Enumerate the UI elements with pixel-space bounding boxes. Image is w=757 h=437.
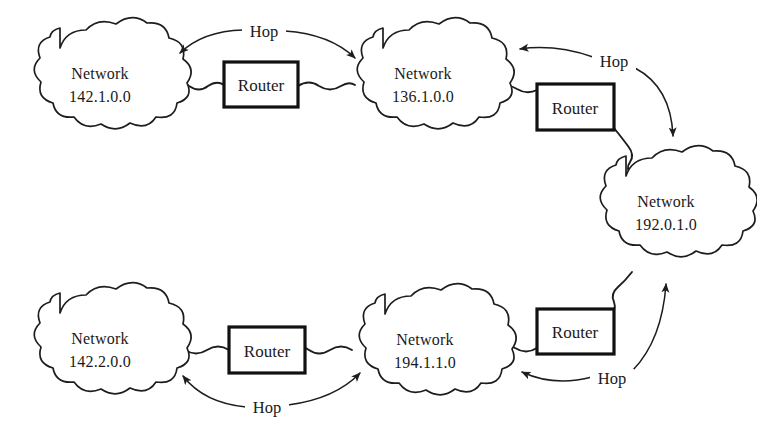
hop-arrow-to-net136 (520, 48, 593, 57)
hop-arrow-left (180, 30, 243, 53)
router-top-left[interactable]: Router (224, 62, 298, 107)
hop-bottom-left[interactable]: Hop (183, 373, 360, 417)
cloud-net-194-1[interactable]: Network 194.1.1.0 (359, 284, 516, 395)
cloud-label-address: 136.1.0.0 (392, 88, 454, 105)
cloud-net-136-1[interactable]: Network 136.1.0.0 (357, 18, 514, 129)
hop-arrow-right (288, 373, 360, 405)
hop-label: Hop (598, 369, 626, 388)
cloud-label-address: 142.2.0.0 (69, 353, 131, 370)
cloud-label-name: Network (71, 65, 128, 82)
cloud-net-192-0[interactable]: Network 192.0.1.0 (600, 146, 757, 257)
router-bottom-right[interactable]: Router (537, 309, 614, 354)
network-diagram: Network 142.1.0.0 Network 136.1.0.0 Netw… (0, 0, 757, 437)
hop-arrow-right (285, 31, 355, 58)
router-top-right[interactable]: Router (537, 84, 614, 130)
link-router-top-left-to-net136-1 (298, 83, 355, 90)
hop-arrow-to-net192 (635, 68, 673, 136)
hop-top-left[interactable]: Hop (180, 22, 355, 58)
router-label: Router (552, 323, 599, 342)
cloud-label-address: 192.0.1.0 (635, 216, 697, 233)
link-net194-1-to-router-bottom-left (305, 347, 352, 354)
cloud-label-name: Network (71, 330, 128, 347)
cloud-label-address: 142.1.0.0 (69, 88, 131, 105)
hop-arrow-left (183, 376, 246, 407)
cloud-label-name: Network (637, 193, 694, 210)
cloud-net-142-1[interactable]: Network 142.1.0.0 (34, 18, 191, 129)
cloud-label-address: 194.1.1.0 (394, 354, 456, 371)
hop-label: Hop (250, 22, 278, 41)
hop-arrow-to-net194 (522, 372, 592, 381)
router-bottom-left[interactable]: Router (229, 327, 305, 373)
router-label: Router (244, 342, 291, 361)
router-label: Router (238, 76, 285, 95)
cloud-label-name: Network (396, 331, 453, 348)
hop-label: Hop (253, 398, 281, 417)
router-label: Router (552, 99, 599, 118)
diagram-canvas: Network 142.1.0.0 Network 136.1.0.0 Netw… (0, 0, 757, 437)
cloud-label-name: Network (394, 65, 451, 82)
hop-arrow-to-net192 (633, 284, 666, 370)
cloud-net-142-2[interactable]: Network 142.2.0.0 (34, 283, 191, 394)
hop-label: Hop (600, 52, 628, 71)
